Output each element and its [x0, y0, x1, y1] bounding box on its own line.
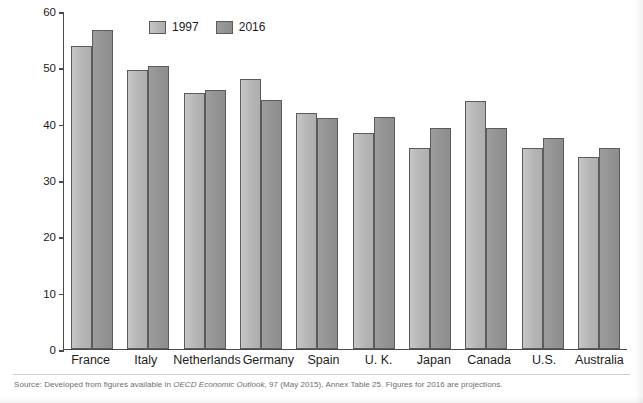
source-note-prefix: Source: Developed from figures available… [14, 380, 173, 389]
bar-spain-1997 [296, 113, 317, 349]
bar-group [571, 12, 627, 349]
footer-divider [13, 374, 630, 375]
bar-u-s-1997 [522, 148, 543, 349]
figure-container: Government outlays (percentage of GDP) 0… [0, 0, 643, 403]
bar-france-2016 [92, 30, 113, 349]
bar-italy-1997 [127, 70, 148, 349]
bar-group [345, 12, 401, 349]
x-axis-label-france: France [63, 353, 118, 367]
legend-label-2016: 2016 [239, 20, 266, 34]
y-axis-tick: 30 [20, 175, 64, 187]
x-axis-label-netherlands: Netherlands [173, 353, 240, 367]
bar-group [233, 12, 289, 349]
bar-group [514, 12, 570, 349]
x-axis-label-u-s: U.S. [517, 353, 572, 367]
bar-group [177, 12, 233, 349]
bar-netherlands-2016 [205, 90, 226, 349]
chart-legend: 19972016 [149, 20, 265, 34]
bar-australia-2016 [599, 148, 620, 349]
y-axis-tick: 40 [20, 119, 64, 131]
y-axis-tick: 60 [20, 6, 64, 18]
x-axis-label-u-k: U. K. [351, 353, 406, 367]
bar-italy-2016 [148, 66, 169, 349]
source-note: Source: Developed from figures available… [14, 380, 634, 389]
y-axis-tick: 50 [20, 62, 64, 74]
x-axis-label-australia: Australia [572, 353, 627, 367]
right-edge-shadow [635, 0, 643, 403]
bar-netherlands-1997 [184, 93, 205, 349]
plot-area: Government outlays (percentage of GDP) 0… [63, 12, 627, 350]
bottom-edge-shadow [0, 397, 643, 403]
bar-group [289, 12, 345, 349]
x-axis-label-italy: Italy [118, 353, 173, 367]
x-axis-label-germany: Germany [241, 353, 296, 367]
bar-spain-2016 [317, 118, 338, 349]
bar-france-1997 [71, 46, 92, 349]
bar-japan-2016 [430, 128, 451, 349]
y-axis-tick: 20 [20, 231, 64, 243]
legend-item-1997: 1997 [149, 20, 199, 34]
bar-u-s-2016 [543, 138, 564, 349]
legend-swatch-1997 [149, 21, 166, 34]
legend-label-1997: 1997 [172, 20, 199, 34]
legend-swatch-2016 [216, 21, 233, 34]
bar-canada-1997 [465, 101, 486, 349]
y-axis-tick: 0 [20, 344, 64, 356]
clipped-heading-above-figure [60, 0, 580, 3]
bar-group [402, 12, 458, 349]
bar-group [458, 12, 514, 349]
source-note-suffix: , 97 (May 2015), Annex Table 25. Figures… [265, 380, 503, 389]
bar-u-k-1997 [353, 133, 374, 349]
x-axis-label-canada: Canada [461, 353, 516, 367]
legend-item-2016: 2016 [216, 20, 266, 34]
y-axis-tick: 10 [20, 288, 64, 300]
bar-group [64, 12, 120, 349]
bar-germany-1997 [240, 79, 261, 349]
bar-u-k-2016 [374, 117, 395, 349]
bar-japan-1997 [409, 148, 430, 349]
bar-canada-2016 [486, 128, 507, 349]
plot-inner [64, 12, 627, 349]
bar-group [120, 12, 176, 349]
bar-groups [64, 12, 627, 349]
source-note-publication: OECD Economic Outlook [173, 380, 264, 389]
bar-germany-2016 [261, 100, 282, 349]
bar-australia-1997 [578, 157, 599, 349]
x-axis-label-japan: Japan [406, 353, 461, 367]
x-axis-labels: FranceItalyNetherlandsGermanySpainU. K.J… [63, 353, 627, 367]
x-axis-label-spain: Spain [296, 353, 351, 367]
